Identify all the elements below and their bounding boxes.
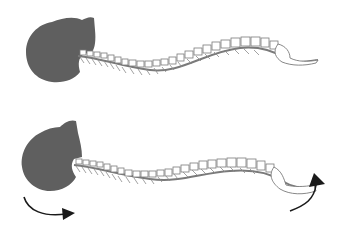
top-skull-spine-figure: neutral-posture [0,0,340,113]
sacrum-tail [275,44,318,65]
sacrum-tail [271,167,316,194]
skull-icon [22,120,82,191]
bottom-skull-spine-figure: rotated-posture [0,113,340,227]
bottom-illustration [0,113,340,227]
top-illustration [0,0,340,113]
vertebrae [76,158,274,177]
skull-rotation-arrow [24,197,75,220]
